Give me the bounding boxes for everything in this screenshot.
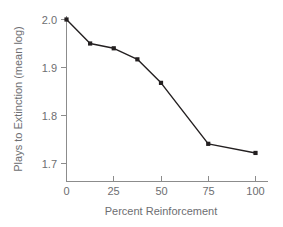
x-tick-label-0: 0 xyxy=(63,185,69,197)
x-tick-label-25: 25 xyxy=(107,185,119,197)
data-point-marker xyxy=(88,41,92,45)
y-axis-title: Plays to Extinction (mean log) xyxy=(12,26,24,172)
data-point-marker xyxy=(112,46,116,50)
y-tick-label-1-7: 1.7 xyxy=(42,158,57,170)
y-tick-label-2-0: 2.0 xyxy=(42,14,57,26)
series-line-plays-to-extinction xyxy=(67,20,256,153)
x-axis-title: Percent Reinforcement xyxy=(105,205,218,217)
x-tick-label-75: 75 xyxy=(202,185,214,197)
y-tick-label-1-9: 1.9 xyxy=(42,62,57,74)
data-point-marker xyxy=(206,142,210,146)
data-point-marker xyxy=(253,151,257,155)
line-chart-plot: 2.0 1.9 1.8 1.7 0 25 50 75 100 Percent R… xyxy=(0,0,283,227)
data-point-marker xyxy=(135,57,139,61)
data-point-marker xyxy=(64,17,68,21)
chart-figure: 2.0 1.9 1.8 1.7 0 25 50 75 100 Percent R… xyxy=(0,0,283,227)
y-tick-label-1-8: 1.8 xyxy=(42,110,57,122)
series-markers-group xyxy=(64,17,257,155)
x-tick-label-50: 50 xyxy=(155,185,167,197)
data-point-marker xyxy=(159,81,163,85)
x-tick-label-100: 100 xyxy=(246,185,264,197)
